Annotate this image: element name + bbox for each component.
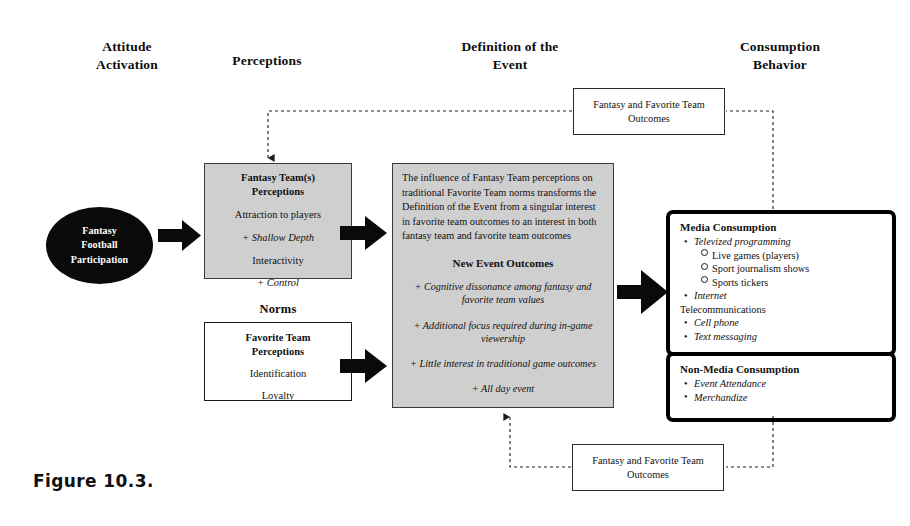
non-media-consumption-item: •Merchandize [680,391,883,405]
header-line-2: Activation [62,56,192,74]
media-consumption-item: Sports tickers [680,276,883,290]
media-consumption-item-label: Text messaging [694,331,757,342]
feedback-top-text: Fantasy and Favorite Team Outcomes [593,98,704,126]
media-consumption-item-label: Sport journalism shows [712,263,809,274]
bullet-icon: • [684,235,688,248]
media-consumption-item-label: Sports tickers [712,277,768,288]
non-media-consumption-box: Non-Media Consumption •Event Attendance•… [666,352,896,422]
new-event-outcome-item: + Additional focus required during in-ga… [402,319,604,346]
fantasy-perceptions-title-line-1: Fantasy Team(s) [205,171,351,185]
new-event-outcome-item: + Cognitive dissonance among fantasy and… [402,280,604,307]
media-consumption-item: •Internet [680,289,883,303]
media-consumption-list: •Televized programmingLive games (player… [680,235,883,344]
favorite-team-item-loyalty: Loyalty [205,389,351,403]
column-header-consumption-behavior: Consumption Behavior [700,38,860,74]
feedback-bottom-line-1: Fantasy and Favorite Team [592,454,703,468]
media-consumption-item: •Televized programming [680,235,883,249]
header-line-1: Consumption [700,38,860,56]
arrow-definition-to-consumption [617,270,668,314]
bullet-icon: • [684,289,688,302]
bullet-icon: • [684,377,688,390]
non-media-consumption-item-label: Merchandize [694,392,747,403]
definition-paragraph: The influence of Fantasy Team perception… [402,171,604,244]
ellipse-line-3: Participation [71,253,128,268]
media-consumption-item: Telecommunications [680,303,883,317]
norms-label-text: Norms [204,301,352,318]
fantasy-perceptions-title-line-2: Perceptions [205,185,351,199]
figure-canvas: Attitude Activation Perceptions Definiti… [0,0,910,526]
feedback-box-bottom: Fantasy and Favorite Team Outcomes [572,444,724,491]
feedback-box-top: Fantasy and Favorite Team Outcomes [573,88,725,135]
media-consumption-item-label: Televized programming [694,236,791,247]
non-media-consumption-list: •Event Attendance•Merchandize [680,377,883,404]
header-line-1: Perceptions [197,52,337,70]
feedback-top-line-1: Fantasy and Favorite Team [593,98,704,112]
media-consumption-item: •Text messaging [680,330,883,344]
media-consumption-item-label: Internet [694,290,727,301]
ellipse-line-1: Fantasy [71,224,128,239]
feedback-bottom-text: Fantasy and Favorite Team Outcomes [592,454,703,482]
column-header-attitude-activation: Attitude Activation [62,38,192,74]
non-media-consumption-title: Non-Media Consumption [680,363,883,375]
feedback-top-line-2: Outcomes [593,112,704,126]
bullet-icon: • [684,316,688,329]
header-line-2: Behavior [700,56,860,74]
column-header-definition-of-the-event: Definition of the Event [420,38,600,74]
fantasy-perceptions-item-attraction: Attraction to players [205,208,351,222]
fantasy-team-perceptions-box: Fantasy Team(s) Perceptions Attraction t… [204,163,352,279]
fantasy-perceptions-item-shallow-depth: + Shallow Depth [205,231,351,245]
header-line-1: Attitude [62,38,192,56]
non-media-consumption-item-label: Event Attendance [694,378,766,389]
feedback-bottom-line-2: Outcomes [592,468,703,482]
hollow-bullet-icon [701,276,708,283]
new-event-outcomes-title: New Event Outcomes [402,257,604,269]
hollow-bullet-icon [701,249,708,256]
header-line-2: Event [420,56,600,74]
fantasy-football-participation-ellipse: Fantasy Football Participation [46,207,153,284]
definition-of-the-event-box: The influence of Fantasy Team perception… [392,163,614,408]
arrow-ellipse-to-fantasy-perceptions [158,220,201,251]
media-consumption-title: Media Consumption [680,221,883,233]
media-consumption-item: •Cell phone [680,316,883,330]
media-consumption-box: Media Consumption •Televized programming… [666,210,896,356]
favorite-team-title-line-1: Favorite Team [205,331,351,345]
figure-caption: Figure 10.3. [33,471,154,491]
media-consumption-item-label: Telecommunications [680,304,766,315]
ellipse-line-2: Football [71,238,128,253]
bullet-icon: • [684,390,688,403]
favorite-team-item-identification: Identification [205,367,351,381]
media-consumption-item: Sport journalism shows [680,262,883,276]
fantasy-perceptions-item-interactivity: Interactivity [205,254,351,268]
column-header-perceptions: Perceptions [197,52,337,70]
header-line-1: Definition of the [420,38,600,56]
non-media-consumption-item: •Event Attendance [680,377,883,391]
norms-label: Norms [204,301,352,318]
ellipse-label: Fantasy Football Participation [71,224,128,268]
new-event-outcome-item: + Little interest in traditional game ou… [402,357,604,370]
favorite-team-perceptions-box: Favorite Team Perceptions Identification… [204,322,352,401]
new-event-outcome-item: + All day event [402,382,604,395]
bullet-icon: • [684,330,688,343]
media-consumption-item-label: Cell phone [694,317,739,328]
favorite-team-title-line-2: Perceptions [205,345,351,359]
media-consumption-item: Live games (players) [680,249,883,263]
media-consumption-item-label: Live games (players) [712,250,799,261]
fantasy-perceptions-item-control: + Control [205,276,351,290]
hollow-bullet-icon [701,263,708,270]
